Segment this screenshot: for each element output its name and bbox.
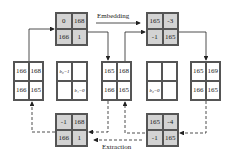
- cell: 166: [56, 130, 72, 146]
- cell: 166: [56, 29, 72, 45]
- cell: 0: [56, 13, 72, 29]
- cell: b₂=0: [147, 81, 162, 100]
- cell: 165: [191, 62, 206, 81]
- cell: [162, 81, 177, 100]
- cell: 166: [102, 81, 117, 100]
- cell: -1: [147, 29, 163, 45]
- cell: 166: [14, 81, 29, 100]
- bits-block-left: b₀=1 b₁=0: [56, 61, 88, 101]
- cell: 165: [163, 130, 179, 146]
- arrow-embed-b-to-stego: [179, 32, 206, 60]
- cell: -4: [163, 114, 179, 130]
- cell: 1: [72, 130, 88, 146]
- cell: b₁=0: [72, 81, 87, 100]
- stego-pixel-block: 165 169 166 165: [190, 61, 221, 101]
- extract-block-a: -1 168 166 1: [55, 113, 88, 147]
- cell: -3: [163, 13, 179, 29]
- cell: b₀=1: [57, 62, 72, 81]
- cell: 165: [163, 29, 179, 45]
- arrow-stego-to-extract-b: [180, 101, 206, 133]
- intermediate-pixel-block: 165 168 166 165: [101, 61, 132, 101]
- cell: 166: [191, 81, 206, 100]
- arrow-orig-to-embed-a: [29, 29, 54, 61]
- cell: 168: [117, 62, 132, 81]
- cell: 165: [147, 114, 163, 130]
- embed-block-b: 165 -3 -1 165: [146, 12, 179, 46]
- embedding-label: Embedding: [97, 12, 129, 20]
- cell: 168: [72, 13, 88, 29]
- arrow-mid-to-embed-b: [125, 32, 145, 61]
- bits-block-right: b₂=0: [146, 61, 178, 101]
- cell: 168: [72, 114, 88, 130]
- arrow-embed-a-to-mid: [88, 32, 108, 60]
- cell: 166: [14, 62, 29, 81]
- original-pixel-block: 166 168 166 165: [13, 61, 44, 101]
- cell: [147, 62, 162, 81]
- cell: -1: [147, 130, 163, 146]
- cell: 169: [206, 62, 221, 81]
- cell: 165: [102, 62, 117, 81]
- cell: 165: [117, 81, 132, 100]
- cell: 165: [29, 81, 44, 100]
- cell: 168: [29, 62, 44, 81]
- cell: [72, 62, 87, 81]
- cell: 165: [206, 81, 221, 100]
- cell: [162, 62, 177, 81]
- extraction-label: Extraction: [102, 143, 131, 151]
- cell: 165: [147, 13, 163, 29]
- extract-block-b: 165 -4 -1 165: [146, 113, 179, 147]
- cell: [57, 81, 72, 100]
- cell: -1: [56, 114, 72, 130]
- embed-block-a: 0 168 166 1: [55, 12, 88, 46]
- arrow-mid-to-extract-a: [89, 101, 108, 132]
- cell: 1: [72, 29, 88, 45]
